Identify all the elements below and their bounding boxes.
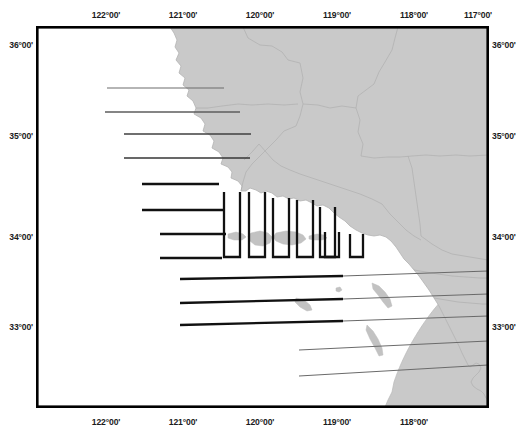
- axis-labels-latitude-right: 36°00' 35°00' 34°00' 33°00': [492, 40, 516, 332]
- lat-tick-right-2: 34°00': [492, 232, 516, 242]
- lon-tick-top-5: 117°00': [464, 10, 492, 20]
- lon-tick-bottom-0: 122°00': [92, 417, 120, 427]
- lon-tick-top-4: 118°00': [400, 10, 428, 20]
- lon-tick-top-2: 120°00': [246, 10, 274, 20]
- lat-tick-left-1: 35°00': [9, 131, 33, 141]
- lon-tick-top-3: 119°00': [323, 10, 351, 20]
- axis-labels-longitude-bottom: 122°00' 121°00' 120°00' 119°00' 118°00': [92, 417, 428, 427]
- lon-tick-top-0: 122°00': [92, 10, 120, 20]
- map-canvas: 122°00' 121°00' 120°00' 119°00' 118°00' …: [0, 0, 529, 436]
- lat-tick-left-3: 33°00': [9, 322, 33, 332]
- lat-tick-left-2: 34°00': [9, 232, 33, 242]
- lon-tick-bottom-1: 121°00': [169, 417, 197, 427]
- lon-tick-bottom-2: 120°00': [246, 417, 274, 427]
- lon-tick-top-1: 121°00': [169, 10, 197, 20]
- lon-tick-bottom-4: 118°00': [400, 417, 428, 427]
- axis-labels-latitude-left: 36°00' 35°00' 34°00' 33°00': [9, 40, 33, 332]
- lat-tick-right-1: 35°00': [492, 131, 516, 141]
- map-figure: 122°00' 121°00' 120°00' 119°00' 118°00' …: [0, 0, 529, 436]
- lat-tick-right-0: 36°00': [492, 40, 516, 50]
- axis-labels-longitude-top: 122°00' 121°00' 120°00' 119°00' 118°00' …: [92, 10, 492, 20]
- lat-tick-right-3: 33°00': [492, 322, 516, 332]
- lat-tick-left-0: 36°00': [9, 40, 33, 50]
- lon-tick-bottom-3: 119°00': [323, 417, 351, 427]
